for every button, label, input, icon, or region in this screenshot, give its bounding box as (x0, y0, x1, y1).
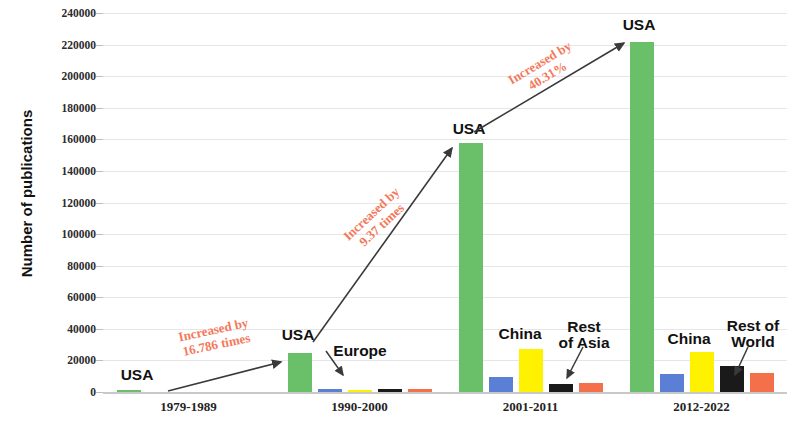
bar-rest-of-asia-1990-2000 (378, 389, 402, 392)
gridline-240000 (103, 13, 787, 14)
y-tickmark-80000 (96, 266, 103, 267)
callout-usa-1990-2000: USA (273, 327, 323, 343)
bar-europe-1990-2000 (318, 389, 342, 392)
x-axis-label-group-2: 2001-2011 (445, 399, 616, 415)
y-tickmark-40000 (96, 329, 103, 330)
bar-rest-of-world-2001-2011 (579, 383, 603, 392)
y-axis-tick-0: 0 (32, 386, 96, 398)
gridline-80000 (103, 266, 787, 267)
callout-china-2012-2022: China (658, 331, 720, 347)
y-tickmark-120000 (96, 203, 103, 204)
callout-rest-of-asia-line2: of Asia (558, 334, 609, 351)
y-tickmark-220000 (96, 45, 103, 46)
y-axis-tick-200000: 200000 (32, 70, 96, 82)
y-axis-tick-40000: 40000 (32, 323, 96, 335)
gridline-20000 (103, 360, 787, 361)
y-tickmark-0 (96, 392, 103, 393)
bar-chart: Number of publications 24000022000020000… (0, 0, 792, 426)
gridline-140000 (103, 171, 787, 172)
callout-rest-of-world-line1: Rest of (727, 317, 780, 334)
callout-rest-of-world-2012-2022: Rest ofWorld (718, 318, 788, 350)
bar-china-1990-2000 (348, 390, 372, 392)
gridline-160000 (103, 139, 787, 140)
callout-rest-of-asia-2001-2011: Restof Asia (551, 319, 617, 351)
y-axis-tick-labels: 2400002200002000001800001600001400001200… (22, 0, 96, 426)
y-axis-tick-120000: 120000 (32, 197, 96, 209)
y-tickmark-100000 (96, 234, 103, 235)
gridline-100000 (103, 234, 787, 235)
callout-rest-of-world-line2: World (731, 333, 775, 350)
bar-usa-2001-2011 (459, 143, 483, 393)
y-tickmark-240000 (96, 13, 103, 14)
callout-europe-1990-2000: Europe (323, 343, 397, 359)
y-tickmark-140000 (96, 171, 103, 172)
callout-usa-1979-1989: USA (112, 367, 162, 383)
y-tickmark-200000 (96, 76, 103, 77)
bar-europe-2012-2022 (660, 374, 684, 392)
callout-rest-of-asia-line1: Rest (567, 318, 601, 335)
bar-china-2001-2011 (519, 349, 543, 392)
bar-usa-1979-1989 (117, 390, 141, 392)
y-axis-tick-160000: 160000 (32, 133, 96, 145)
y-axis-tick-140000: 140000 (32, 165, 96, 177)
y-tickmark-160000 (96, 139, 103, 140)
gridline-60000 (103, 297, 787, 298)
x-axis-label-group-1: 1990-2000 (274, 399, 445, 415)
y-axis-tick-80000: 80000 (32, 260, 96, 272)
y-axis-tick-20000: 20000 (32, 354, 96, 366)
y-axis-tick-100000: 100000 (32, 228, 96, 240)
x-axis-label-group-0: 1979-1989 (103, 399, 274, 415)
gridline-220000 (103, 45, 787, 46)
axis-baseline (103, 392, 787, 394)
bar-usa-2012-2022 (630, 42, 654, 392)
y-axis-tick-180000: 180000 (32, 102, 96, 114)
y-tickmark-20000 (96, 360, 103, 361)
y-axis-tick-240000: 240000 (32, 7, 96, 19)
y-tickmark-180000 (96, 108, 103, 109)
y-tickmark-60000 (96, 297, 103, 298)
bar-rest-of-asia-2012-2022 (720, 366, 744, 392)
callout-china-2001-2011: China (489, 326, 551, 342)
bar-rest-of-world-1990-2000 (408, 389, 432, 392)
y-axis-tick-60000: 60000 (32, 291, 96, 303)
callout-usa-2001-2011: USA (444, 121, 494, 137)
y-axis-tick-220000: 220000 (32, 39, 96, 51)
gridline-200000 (103, 76, 787, 77)
x-axis-label-group-3: 2012-2022 (616, 399, 787, 415)
bar-europe-2001-2011 (489, 377, 513, 392)
bar-rest-of-asia-2001-2011 (549, 384, 573, 392)
gridline-120000 (103, 203, 787, 204)
bar-usa-1990-2000 (288, 353, 312, 392)
bar-rest-of-world-2012-2022 (750, 373, 774, 392)
gridline-180000 (103, 108, 787, 109)
bar-china-2012-2022 (690, 352, 714, 392)
callout-usa-2012-2022: USA (614, 17, 664, 33)
